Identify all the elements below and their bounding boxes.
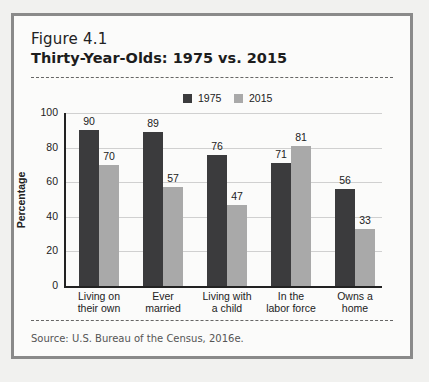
legend: 1975 2015 [0,92,429,106]
y-axis [64,113,66,286]
bar-2015 [291,146,311,286]
top-divider [31,77,393,78]
bar-2015 [163,187,183,286]
bar-value-label: 47 [222,190,252,202]
y-tick-label: 60 [34,175,58,187]
x-category-label: Owns ahome [315,290,395,314]
figure-label: Figure 4.1 [31,30,107,48]
bar-2015 [227,205,247,286]
source-note: Source: U.S. Bureau of the Census, 2016e… [31,333,244,344]
legend-label-2015: 2015 [249,92,272,104]
y-tick-label: 20 [34,244,58,256]
y-tick-label: 0 [34,279,58,291]
y-axis-label: Percentage [15,172,27,229]
bar-value-label: 70 [94,150,124,162]
bottom-divider [31,320,393,321]
bar-value-label: 57 [158,172,188,184]
bar-1975 [271,163,291,286]
legend-item-1975: 1975 [183,92,221,104]
y-tick-label: 40 [34,210,58,222]
bar-value-label: 89 [138,117,168,129]
gridline [64,113,382,114]
figure-title: Thirty-Year-Olds: 1975 vs. 2015 [31,50,287,66]
x-axis [64,286,382,288]
bar-value-label: 76 [202,140,232,152]
bar-1975 [207,155,227,286]
legend-swatch-2015 [234,94,243,103]
bar-1975 [143,132,163,286]
bar-2015 [355,229,375,286]
bar-value-label: 56 [330,174,360,186]
y-tick-label: 100 [34,106,58,118]
legend-swatch-1975 [183,94,192,103]
bar-value-label: 90 [74,115,104,127]
legend-label-1975: 1975 [198,92,221,104]
bar-value-label: 81 [286,131,316,143]
bar-2015 [99,165,119,286]
bar-1975 [335,189,355,286]
legend-item-2015: 2015 [234,92,272,104]
bar-value-label: 33 [350,214,380,226]
y-tick-label: 80 [34,141,58,153]
